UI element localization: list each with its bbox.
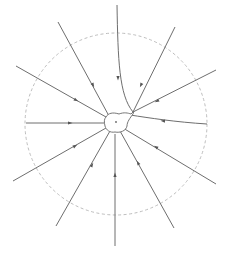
arrowhead-icon (138, 83, 143, 88)
field-line-wsw (13, 128, 106, 181)
field-line-ne (133, 70, 216, 112)
arrowhead-icon (68, 121, 73, 124)
central-point (115, 121, 117, 123)
field-line-e-curve (130, 115, 207, 124)
field-line-diagram (0, 0, 229, 253)
field-line-wnw (16, 66, 106, 117)
arrowhead-icon (73, 98, 78, 103)
field-line-ese (123, 128, 216, 184)
field-line-sse (120, 131, 174, 228)
arrowhead-icon (113, 173, 116, 178)
field-line-nnw (58, 22, 109, 116)
central-body (104, 111, 134, 132)
arrowhead-icon (116, 76, 119, 81)
field-line-nne (133, 27, 175, 112)
field-line-ssw (56, 131, 110, 226)
field-line-top-curve (117, 5, 133, 112)
